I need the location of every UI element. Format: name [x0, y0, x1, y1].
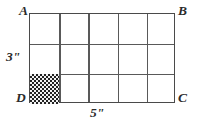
grid-line-vertical-3 [118, 14, 119, 102]
vertex-label-d: D [16, 91, 26, 105]
vertex-label-b: B [178, 4, 187, 18]
grid-line-horizontal-1 [30, 44, 174, 45]
geometry-figure: A B C D 3" 5" [0, 0, 202, 125]
dimension-label-width: 5" [90, 106, 104, 120]
grid-line-vertical-4 [147, 14, 148, 102]
shaded-unit-square [30, 74, 59, 104]
rectangle-abcd [29, 13, 175, 103]
dimension-label-height: 3" [6, 50, 20, 64]
grid-line-vertical-1 [59, 14, 60, 102]
vertex-label-a: A [19, 4, 28, 18]
vertex-label-c: C [178, 91, 187, 105]
grid-line-vertical-2 [88, 14, 89, 102]
